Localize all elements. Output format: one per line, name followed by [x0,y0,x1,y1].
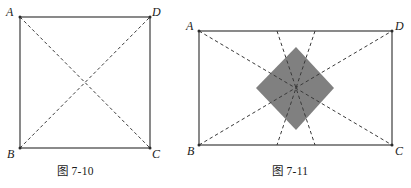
vertex-dot-B [19,147,22,150]
figure-7-10-vertex-label-B: B [7,148,14,160]
shaded-diamond [256,47,334,130]
figure-7-11-vertex-label-D: D [395,20,404,32]
vertex-dot-A [198,30,201,33]
figure-7-11-vertex-label-C: C [395,145,403,157]
figure-7-10-vertex-label-C: C [152,148,160,160]
figure-7-11-caption: 图 7-11 [272,166,308,178]
vertex-dot-A [19,16,22,19]
vertex-dot-B [198,144,201,147]
figure-7-10-group [19,16,152,150]
figure-7-10-vertex-label-A: A [6,6,13,18]
figure-7-11-group [198,30,394,147]
figure-7-11-vertex-label-B: B [187,145,194,157]
geometry-canvas [0,0,411,188]
figure-board: A D B C A D B C 图 7-10 图 7-11 [0,0,411,188]
vertex-dot-D [391,30,394,33]
figure-7-10-vertex-label-D: D [152,6,161,18]
figure-7-11-vertex-label-A: A [186,20,193,32]
figure-7-10-caption: 图 7-10 [57,166,94,178]
vertex-dot-C [391,144,394,147]
